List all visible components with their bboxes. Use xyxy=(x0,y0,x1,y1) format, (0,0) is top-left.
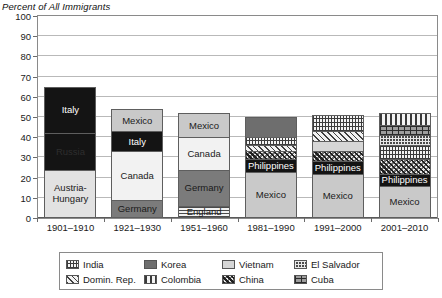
bar-1951–1960[interactable]: EnglandGermanyCanadaMexico xyxy=(178,113,230,218)
legend-label: Vietnam xyxy=(239,259,274,270)
bar-segment-england[interactable]: England xyxy=(178,206,230,218)
x-tick-label-1991–2000: 1991–2000 xyxy=(304,222,371,233)
legend-label: Domin. Rep. xyxy=(83,274,136,285)
bar-segment-canada[interactable]: Canada xyxy=(178,137,230,169)
legend-label: Colombia xyxy=(161,274,201,285)
y-tick-label-70: 70 xyxy=(0,71,31,82)
legend-label: India xyxy=(83,259,104,270)
bar-segment-label: England xyxy=(187,207,222,217)
bar-segment-philippines[interactable]: Philippines xyxy=(379,174,431,186)
y-tick-label-20: 20 xyxy=(0,172,31,183)
bar-1921–1930[interactable]: GermanyCanadaItalyMexico xyxy=(111,109,163,218)
legend-label: China xyxy=(239,274,264,285)
bar-segment-mexico[interactable]: Mexico xyxy=(379,186,431,218)
bar-segment-label: Italy xyxy=(62,105,79,115)
legend-swatch-icon xyxy=(294,275,307,284)
legend-label: Cuba xyxy=(311,274,334,285)
y-tick-label-60: 60 xyxy=(0,91,31,102)
bar-segment-germany[interactable]: Germany xyxy=(111,200,163,218)
legend-item-vietnam[interactable]: Vietnam xyxy=(222,257,294,272)
bar-segment-label: Mexico xyxy=(323,191,353,201)
bar-segment-korea[interactable] xyxy=(245,117,297,137)
x-tick-mark-3 xyxy=(238,218,239,222)
legend-label: El Salvador xyxy=(311,259,360,270)
x-tick-label-1981–1990: 1981–1990 xyxy=(238,222,305,233)
chart-root: Percent of All Immigrants 10090807060504… xyxy=(0,0,442,298)
legend-item-china[interactable]: China xyxy=(222,272,294,287)
x-tick-label-1921–1930: 1921–1930 xyxy=(104,222,171,233)
bar-segment-vietnam[interactable] xyxy=(312,141,364,151)
bar-segment-label: Philippines xyxy=(382,175,428,185)
y-tick-label-80: 80 xyxy=(0,51,31,62)
bar-2001–2010[interactable]: MexicoPhilippines xyxy=(379,113,431,218)
bar-segment-label: Italy xyxy=(129,137,146,147)
bar-segment-india[interactable] xyxy=(312,115,364,131)
y-tick-label-30: 30 xyxy=(0,152,31,163)
legend-item-el-salvador[interactable]: El Salvador xyxy=(294,257,380,272)
bar-segment-label: Germany xyxy=(118,204,157,214)
bar-segment-colombia[interactable] xyxy=(379,113,431,125)
bar-segment-label: Philippines xyxy=(248,161,294,171)
x-tick-mark-5 xyxy=(371,218,372,222)
bar-segment-cuba[interactable] xyxy=(379,125,431,135)
bar-segment-label: Mexico xyxy=(390,197,420,207)
bar-segment-china[interactable] xyxy=(312,151,364,161)
x-tick-mark-4 xyxy=(304,218,305,222)
x-tick-mark-1 xyxy=(104,218,105,222)
legend-swatch-icon xyxy=(66,260,79,269)
x-tick-mark-2 xyxy=(171,218,172,222)
legend-item-korea[interactable]: Korea xyxy=(144,257,222,272)
bar-segment-mexico[interactable]: Mexico xyxy=(312,174,364,218)
bar-segment-label: Mexico xyxy=(189,121,219,131)
legend-item-colombia[interactable]: Colombia xyxy=(144,272,222,287)
bar-segment-label: Austria-Hungary xyxy=(45,183,95,204)
bar-segment-austria-hungary[interactable]: Austria-Hungary xyxy=(44,170,96,218)
bar-series: Austria-HungaryRussiaItalyGermanyCanadaI… xyxy=(37,15,438,219)
bar-1991–2000[interactable]: MexicoPhilippines xyxy=(312,115,364,218)
legend-label: Korea xyxy=(161,259,186,270)
bar-segment-domin-rep[interactable] xyxy=(312,131,364,141)
bar-segment-label: Russia xyxy=(56,147,85,157)
bar-segment-label: Philippines xyxy=(315,163,361,173)
bar-segment-india[interactable] xyxy=(245,137,297,145)
y-tick-label-40: 40 xyxy=(0,132,31,143)
bar-segment-germany[interactable]: Germany xyxy=(178,170,230,206)
bar-segment-italy[interactable]: Italy xyxy=(44,87,96,133)
bar-segment-label: Canada xyxy=(121,171,154,181)
legend-item-domin-rep[interactable]: Domin. Rep. xyxy=(66,272,144,287)
x-tick-label-1901–1910: 1901–1910 xyxy=(37,222,104,233)
bar-1981–1990[interactable]: MexicoPhilippines xyxy=(245,117,297,218)
bar-segment-india[interactable] xyxy=(379,145,431,159)
y-tick-label-0: 0 xyxy=(0,213,31,224)
bar-segment-canada[interactable]: Canada xyxy=(111,151,163,199)
bar-segment-label: Mexico xyxy=(256,190,286,200)
legend-item-cuba[interactable]: Cuba xyxy=(294,272,380,287)
bar-1901–1910[interactable]: Austria-HungaryRussiaItaly xyxy=(44,87,96,218)
bar-segment-el-salvador[interactable] xyxy=(379,135,431,145)
y-tick-label-10: 10 xyxy=(0,192,31,203)
x-tick-label-1951–1960: 1951–1960 xyxy=(171,222,238,233)
legend-swatch-icon xyxy=(144,260,157,269)
bar-segment-mexico[interactable]: Mexico xyxy=(111,109,163,131)
y-tick-label-100: 100 xyxy=(0,11,31,22)
bar-segment-china[interactable] xyxy=(245,151,297,159)
legend: IndiaKoreaVietnamEl SalvadorDomin. Rep.C… xyxy=(59,252,383,290)
bar-segment-philippines[interactable]: Philippines xyxy=(245,159,297,171)
legend-item-india[interactable]: India xyxy=(66,257,144,272)
bar-segment-mexico[interactable]: Mexico xyxy=(178,113,230,137)
x-tick-label-2001–2010: 2001–2010 xyxy=(371,222,438,233)
bar-segment-mexico[interactable]: Mexico xyxy=(245,172,297,218)
legend-swatch-icon xyxy=(66,275,79,284)
x-tick-mark-0 xyxy=(37,218,38,222)
legend-swatch-icon xyxy=(222,275,235,284)
bar-segment-china[interactable] xyxy=(379,159,431,173)
bar-segment-label: Canada xyxy=(187,149,220,159)
bar-segment-domin-rep[interactable] xyxy=(245,145,297,151)
bar-segment-russia[interactable]: Russia xyxy=(44,133,96,169)
bar-segment-philippines[interactable]: Philippines xyxy=(312,161,364,173)
x-tick-mark-6 xyxy=(438,218,439,222)
bar-segment-label: Mexico xyxy=(122,116,152,126)
bar-segment-italy[interactable]: Italy xyxy=(111,131,163,151)
legend-swatch-icon xyxy=(144,275,157,284)
y-tick-label-90: 90 xyxy=(0,31,31,42)
